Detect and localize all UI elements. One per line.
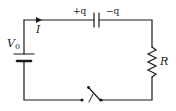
battery-label-main: V	[7, 37, 15, 50]
capacitor-plus-label: +q	[73, 7, 86, 16]
switch-blade-tip	[87, 86, 90, 89]
circuit-diagram	[0, 0, 176, 111]
switch-contact-right	[99, 98, 102, 101]
resistor	[148, 47, 156, 77]
wire-bottom-left	[24, 62, 82, 100]
switch-contact-left	[80, 98, 83, 101]
battery-label: V0	[7, 38, 20, 51]
resistor-label: R	[160, 56, 168, 67]
wire-right-bottom	[101, 77, 152, 100]
current-label: I	[36, 24, 40, 35]
switch-cross-tick	[89, 94, 93, 102]
battery-label-subscript: 0	[15, 42, 20, 51]
capacitor-minus-label: −q	[106, 7, 119, 16]
wire-top-right	[99, 20, 152, 47]
